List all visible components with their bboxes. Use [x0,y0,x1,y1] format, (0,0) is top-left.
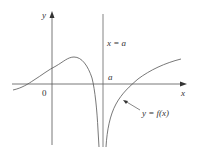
curve-label: y = f(x) [141,108,169,118]
x-axis-arrow-icon [180,82,187,87]
y-axis-arrow-icon [50,11,55,18]
origin-label: 0 [42,88,47,98]
x-axis-label: x [180,88,185,98]
curve-right-branch [106,59,181,147]
curve-left-branch [13,57,99,147]
curve-label-leader [125,101,140,110]
asymptote-tick-label: a [108,72,113,82]
asymptote-equation-label: x = a [106,38,127,48]
y-axis-label: y [41,10,46,20]
function-graph: y x 0 x = a a y = f(x) [0,0,203,159]
leader-arrow-icon [123,100,128,104]
